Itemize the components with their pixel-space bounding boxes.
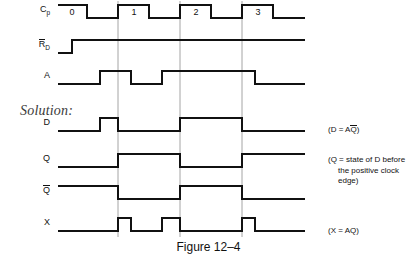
timing-diagram-figure: 0123 Cp RD A D Q Q X Solution: (D = AQ) …: [0, 0, 417, 266]
annotation-q-line-1: (Q = state of D before: [328, 155, 405, 164]
signal-label-q-bar: Q: [18, 185, 50, 195]
solution-heading: Solution:: [20, 103, 73, 119]
clock-pulse-label-0: 0: [69, 7, 74, 17]
annotation-q-line-2: the positive clock: [328, 166, 405, 177]
annotation-d-equation: (D = AQ): [328, 125, 359, 136]
clock-pulse-label-2: 2: [193, 7, 198, 17]
signal-label-subscript: p: [46, 9, 50, 16]
signal-label-text: Q: [43, 153, 50, 163]
annotation-d-suffix: ): [357, 125, 360, 134]
clock-pulse-number-labels: 0123: [69, 7, 260, 17]
signal-label-text: X: [44, 217, 50, 227]
waveform-q: [58, 154, 305, 167]
waveform-a: [58, 71, 305, 84]
waveform-x: [58, 218, 305, 231]
waveform-d: [58, 118, 305, 131]
waveform-cp: [58, 5, 305, 18]
signal-label-rd: RD: [18, 39, 50, 51]
waveform-traces: [58, 5, 305, 231]
annotation-d-prefix: (D = A: [328, 125, 350, 134]
signal-label-subscript: D: [45, 44, 50, 51]
clock-pulse-label-1: 1: [131, 7, 136, 17]
clock-pulse-label-3: 3: [255, 7, 260, 17]
signal-label-cp: Cp: [18, 4, 50, 16]
annotation-q-line-3: edge): [328, 176, 405, 187]
signal-label-a: A: [18, 70, 50, 80]
figure-caption: Figure 12–4: [0, 240, 417, 254]
waveform-rd: [58, 40, 305, 53]
annotation-x-equation: (X = AQ): [328, 226, 359, 237]
signal-label-text: A: [44, 70, 50, 80]
signal-label-x: X: [18, 217, 50, 227]
waveform-qbar: [58, 186, 305, 199]
annotation-q-description: (Q = state of D before the positive cloc…: [328, 155, 405, 187]
signal-label-text: Q: [43, 185, 50, 195]
signal-label-q: Q: [18, 153, 50, 163]
